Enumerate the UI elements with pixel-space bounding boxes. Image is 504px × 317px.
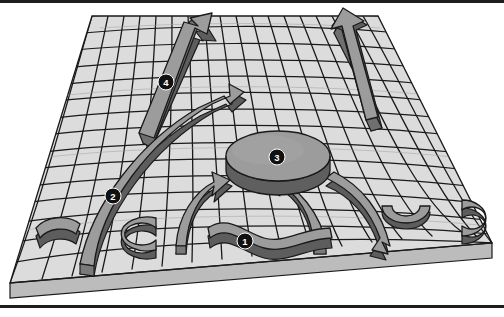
- figure-canvas: 1 2 3 4: [0, 0, 504, 317]
- numbered-label-3: 3: [269, 149, 285, 165]
- numbered-label-1: 1: [237, 233, 253, 249]
- bottom-border-rule: [0, 305, 504, 308]
- label-circle: [237, 233, 253, 249]
- top-border-rule: [0, 0, 504, 3]
- label-circle: [269, 149, 285, 165]
- label-circle: [105, 188, 121, 204]
- label-circle: [158, 74, 174, 90]
- numbered-label-4: 4: [158, 74, 174, 90]
- numbered-label-2: 2: [105, 188, 121, 204]
